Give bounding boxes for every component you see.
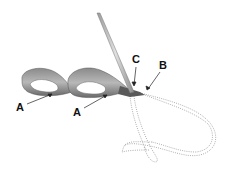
ribbon-needle-illustration (0, 0, 227, 174)
ribbon-loop-1 (22, 68, 72, 95)
dotted-ribbon-outline (122, 93, 216, 162)
label-a-first-loop: A (16, 102, 24, 113)
label-c: C (132, 54, 140, 65)
label-b: B (159, 60, 167, 71)
label-a-second-loop: A (73, 107, 81, 118)
diagram: A A B C (0, 0, 227, 174)
